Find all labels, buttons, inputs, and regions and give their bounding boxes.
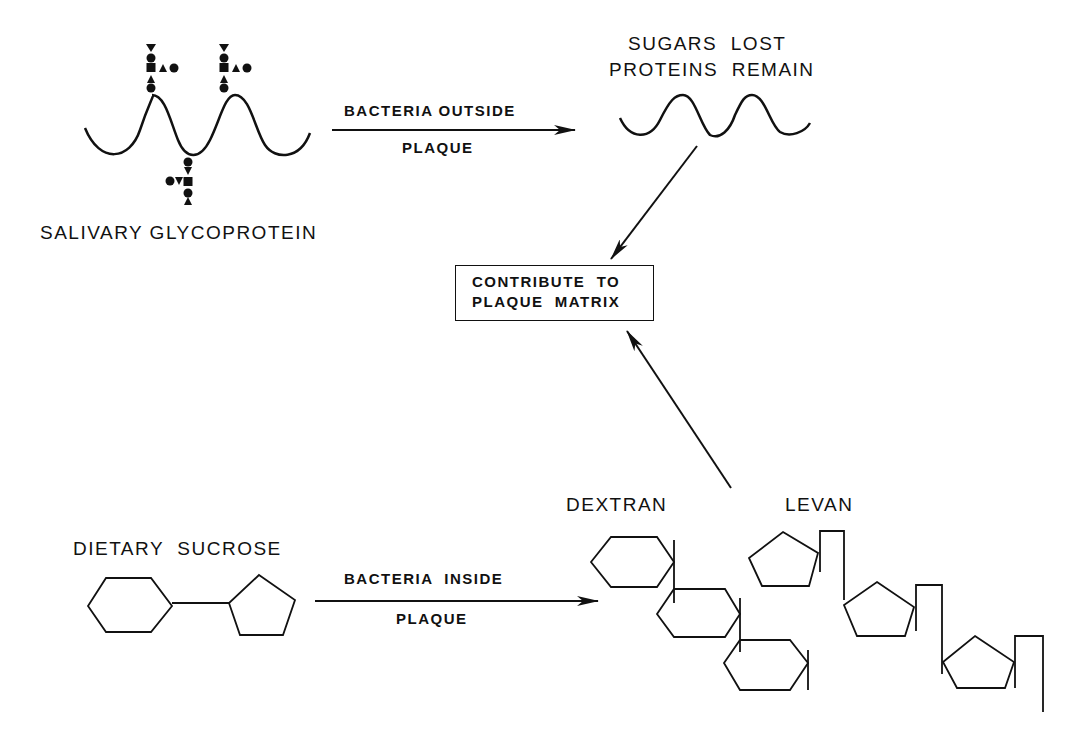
arrow-top-label-below: PLAQUE	[402, 139, 474, 156]
box-line-1: CONTRIBUTE TO	[472, 272, 653, 292]
glycoprotein-wave	[85, 95, 310, 155]
salivary-glycoprotein-label: SALIVARY GLYCOPROTEIN	[40, 222, 317, 244]
protein-wave	[620, 95, 810, 136]
box-line-2: PLAQUE MATRIX	[472, 292, 653, 312]
arrow-proteins-to-matrix	[611, 146, 697, 259]
plaque-matrix-box: CONTRIBUTE TO PLAQUE MATRIX	[455, 265, 654, 321]
proteins-remain-label: PROTEINS REMAIN	[609, 59, 815, 81]
diagram-canvas	[0, 0, 1090, 745]
arrow-polymers-to-matrix	[627, 331, 731, 488]
dextran-molecule	[591, 537, 808, 690]
sucrose-molecule	[88, 575, 295, 635]
arrow-bottom-label-below: PLAQUE	[396, 610, 468, 627]
arrow-top-label-above: BACTERIA OUTSIDE	[344, 102, 516, 119]
sugar-chain-3	[166, 158, 193, 206]
sugar-chain-1	[146, 44, 179, 93]
dietary-sucrose-label: DIETARY SUCROSE	[73, 538, 282, 560]
sugar-chain-2	[219, 44, 252, 93]
levan-label: LEVAN	[785, 494, 853, 516]
dextran-label: DEXTRAN	[566, 494, 667, 516]
arrow-bottom-label-above: BACTERIA INSIDE	[344, 570, 503, 587]
sugars-lost-label: SUGARS LOST	[628, 33, 786, 55]
